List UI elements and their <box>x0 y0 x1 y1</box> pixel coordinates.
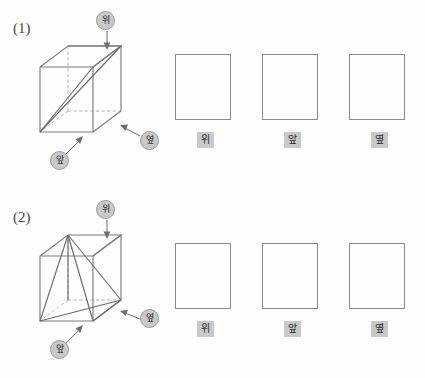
answer-cell-side-2: 옆 <box>349 243 409 337</box>
problem-block-2: (2) <box>0 189 425 378</box>
answer-box-front-2[interactable] <box>262 243 318 309</box>
answer-cell-side-1: 옆 <box>349 54 409 148</box>
answer-views-row-1: 위 앞 옆 <box>172 0 422 189</box>
callout-top-1: 위 <box>96 11 115 30</box>
answer-cell-front-2: 앞 <box>262 243 322 337</box>
answer-label-wrap-top-2: 위 <box>175 318 235 337</box>
answer-label-front-2: 앞 <box>284 321 301 337</box>
answer-cell-top-1: 위 <box>175 54 235 148</box>
cut-plane-lines <box>40 235 121 321</box>
answer-views-row-2: 위 앞 옆 <box>172 189 422 378</box>
answer-box-top-1[interactable] <box>175 54 231 120</box>
side-direction-arrow-2 <box>120 310 140 319</box>
problem-block-1: (1) <box>0 0 425 189</box>
answer-label-front-1: 앞 <box>284 132 301 148</box>
callout-side-2: 옆 <box>140 309 159 328</box>
answer-label-top-2: 위 <box>197 321 214 337</box>
callout-front-2: 앞 <box>50 340 69 359</box>
callout-front-1: 앞 <box>50 151 69 170</box>
answer-cell-top-2: 위 <box>175 243 235 337</box>
callout-side-1: 옆 <box>140 131 159 150</box>
answer-cell-front-1: 앞 <box>262 54 322 148</box>
answer-label-wrap-front-2: 앞 <box>262 318 322 337</box>
answer-box-top-2[interactable] <box>175 243 231 309</box>
answer-box-side-1[interactable] <box>349 54 405 120</box>
answer-box-side-2[interactable] <box>349 243 405 309</box>
cut-plane-lines <box>40 46 121 132</box>
answer-label-wrap-front-1: 앞 <box>262 129 322 148</box>
front-direction-arrow-1 <box>66 136 83 154</box>
answer-label-side-2: 옆 <box>371 321 388 337</box>
answer-label-wrap-side-2: 옆 <box>349 318 409 337</box>
figure-1-cube-with-diagonal-plane: 위 앞 옆 <box>18 8 178 183</box>
cube-diagram-2 <box>18 197 178 372</box>
answer-label-side-1: 옆 <box>371 132 388 148</box>
answer-box-front-1[interactable] <box>262 54 318 120</box>
top-direction-arrow-1 <box>104 31 111 50</box>
callout-top-2: 위 <box>96 200 115 219</box>
answer-label-top-1: 위 <box>197 132 214 148</box>
top-direction-arrow-2 <box>104 220 111 239</box>
side-direction-arrow-1 <box>120 125 140 136</box>
cube-diagram-1 <box>18 8 178 183</box>
answer-label-wrap-top-1: 위 <box>175 129 235 148</box>
front-direction-arrow-2 <box>66 325 83 343</box>
figure-2-cube-with-triangular-cut: 위 앞 옆 <box>18 197 178 372</box>
answer-label-wrap-side-1: 옆 <box>349 129 409 148</box>
